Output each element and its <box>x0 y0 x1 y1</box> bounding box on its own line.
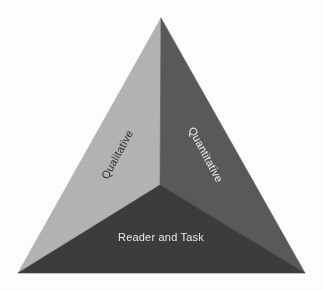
figure-canvas: Qualitative Quantitative Reader and Task <box>0 0 323 290</box>
triangle-diagram: Qualitative Quantitative Reader and Task <box>0 0 323 290</box>
face-label-reader-and-task: Reader and Task <box>118 231 204 243</box>
